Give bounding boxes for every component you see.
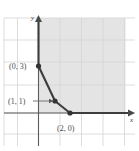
point-marker-0-3 xyxy=(36,63,41,68)
point-label-1-1: (1, 1) xyxy=(8,97,26,106)
graph-canvas: y x (0, 3) (1, 1) (2, 0) xyxy=(0,0,139,151)
x-axis-label: x xyxy=(129,116,134,124)
shaded-feasible-region xyxy=(39,18,126,113)
point-marker-2-0 xyxy=(67,110,72,115)
point-label-2-0: (2, 0) xyxy=(57,124,75,133)
coordinate-plane-figure: y x (0, 3) (1, 1) (2, 0) xyxy=(0,0,139,151)
point-label-0-3: (0, 3) xyxy=(9,62,27,71)
